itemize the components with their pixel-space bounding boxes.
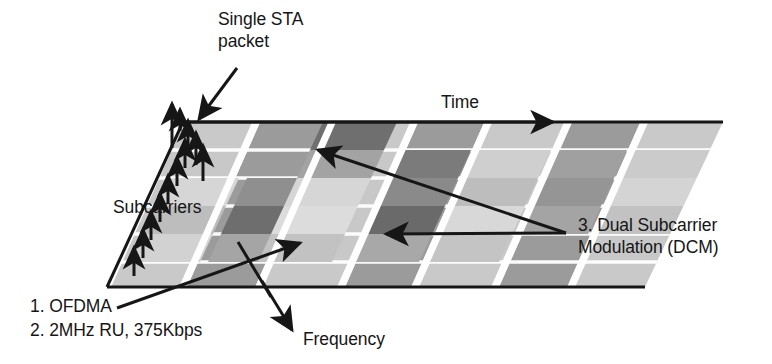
single-sta-leader [199,68,237,119]
subcarriers-axis-label: Subcarriers [113,197,201,218]
frequency-axis-label: Frequency [303,329,385,350]
time-axis-label: Time [441,92,479,113]
ru-callout-label: 2. 2MHz RU, 375Kbps [30,320,202,341]
dcm-callout-label: 3. Dual SubcarrierModulation (DCM) [578,214,718,258]
dcm-leader-lower [386,233,566,234]
ofdma-callout-label: 1. OFDMA [30,296,112,317]
single-sta-callout-label: Single STApacket [218,8,303,52]
diagram-canvas: Single STApacket Time Subcarriers Freque… [0,0,772,364]
